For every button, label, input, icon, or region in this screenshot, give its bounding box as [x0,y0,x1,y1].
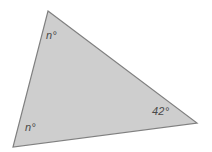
angle-label-right: 42° [152,106,169,117]
triangle-polygon [13,11,197,147]
angle-label-bottom-left: n° [25,122,36,133]
angle-label-apex: n° [46,30,57,41]
triangle-diagram: n° n° 42° [0,0,212,152]
